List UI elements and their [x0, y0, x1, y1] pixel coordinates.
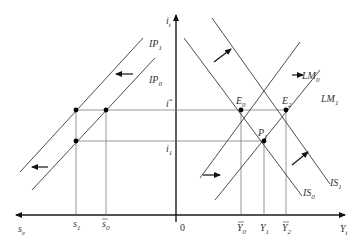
- ip0-curve: [32, 58, 155, 190]
- e2-label: E2: [281, 95, 292, 109]
- svg-text:Y0: Y0: [237, 222, 247, 236]
- is-shift-arrow-upper: [214, 49, 231, 62]
- svg-text:s0: s0: [102, 218, 110, 232]
- exchange-rate-axis-label: se: [18, 223, 25, 237]
- sbar0-tick-label: s0: [102, 218, 110, 232]
- origin-label: 0: [180, 222, 185, 233]
- open-economy-islm-ip-diagram: it Yt se 0 LM0 LM1 IS0 IS1 IP1 IP0 E0 E2…: [0, 0, 360, 244]
- ybar0-tick-label: Y0: [237, 222, 247, 236]
- ip0-istar-point: [104, 108, 109, 113]
- lm1-label: LM1: [320, 93, 338, 107]
- lm-shift-arrow-lower: [292, 152, 308, 165]
- e0-label: E0: [235, 95, 246, 109]
- ip1-istar-point: [74, 108, 79, 113]
- istar-label: i*: [166, 97, 173, 109]
- svg-text:s1: s1: [73, 218, 80, 232]
- is0-label: IS0: [302, 187, 315, 201]
- ip1-label: IP1: [148, 38, 162, 52]
- i1-label: i1: [166, 143, 172, 157]
- s1-tick-label: s1: [73, 218, 80, 232]
- output-axis-label: Yt: [340, 223, 349, 237]
- svg-text:Y1: Y1: [260, 222, 269, 236]
- ip0-label: IP0: [148, 74, 162, 88]
- is1-label: IS1: [329, 177, 342, 191]
- svg-text:Y2: Y2: [282, 222, 292, 236]
- ip0-i1-point: [74, 139, 79, 144]
- y1-tick-label: Y1: [260, 222, 269, 236]
- interest-rate-axis-label: it: [166, 15, 172, 29]
- ybar2-tick-label: Y2: [282, 222, 292, 236]
- p1-label: P1: [257, 127, 268, 141]
- ip1-curve: [20, 38, 143, 172]
- is1-curve: [212, 18, 330, 184]
